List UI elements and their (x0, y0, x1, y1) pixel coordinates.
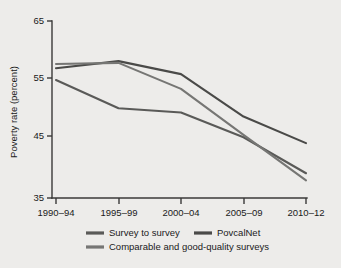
x-tick-label-2005-09: 2005–09 (226, 207, 263, 218)
x-tick-label-1990-94: 1990–94 (38, 207, 75, 218)
x-tick-label-2000-04: 2000–04 (163, 207, 200, 218)
x-tick-label-2010-12: 2010–12 (288, 207, 325, 218)
legend-label-survey-to-survey: Survey to survey (109, 227, 180, 238)
y-axis-title: Poverty rate (percent) (8, 66, 19, 158)
legend-label-comparable-surveys: Comparable and good-quality surveys (109, 241, 269, 252)
y-tick-label-65: 65 (33, 15, 44, 26)
poverty-rate-line-chart: Poverty rate (percent) 65 55 45 35 1990–… (0, 0, 341, 268)
y-tick-label-35: 35 (33, 192, 44, 203)
y-tick-label-55: 55 (33, 72, 44, 83)
legend-label-povcalnet: PovcalNet (217, 227, 261, 238)
y-tick-label-45: 45 (33, 130, 44, 141)
x-tick-label-1995-99: 1995–99 (101, 207, 138, 218)
